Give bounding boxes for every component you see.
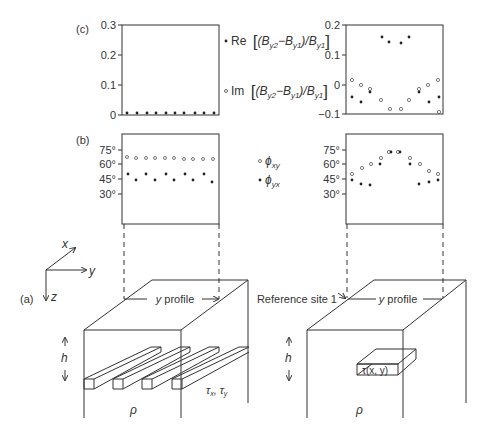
panel-c-label: (c): [76, 23, 89, 35]
re-points: [351, 36, 441, 104]
plot-b-left: 75° 60° 45° 30°: [99, 134, 219, 224]
y-profile-label-right: y profile: [378, 293, 418, 305]
ytick: 45°: [323, 173, 340, 185]
h-label-right: h: [285, 351, 292, 365]
plot-c-left: 0.3 0.2 0.1 0: [101, 19, 219, 121]
ytick: 60°: [323, 158, 340, 170]
ytick: 75°: [323, 144, 340, 156]
svg-text:Im [(By2−By1)/By1]: Im [(By2−By1)/By1]: [231, 82, 328, 101]
figure-canvas: (c) 0.3 0.2 0.1 0 Re [(By2−By1)/By1] Im …: [0, 0, 491, 433]
axis-y-label: y: [88, 264, 96, 278]
phi-xy-points: [126, 156, 215, 161]
filled-dot-icon: [225, 40, 228, 43]
ytick: 75°: [99, 144, 116, 156]
axis-x-label: x: [61, 237, 69, 251]
plot-b-right: 75° 60° 45° 30°: [323, 134, 443, 224]
tau-label: τx, τy: [206, 384, 228, 398]
im-points: [350, 78, 440, 113]
ytick: 0.1: [325, 49, 340, 61]
panel-b-label: (b): [76, 134, 89, 146]
panel-a-label: (a): [20, 293, 33, 305]
filled-dot-icon: [259, 179, 262, 182]
legend-im-prefix: Im: [231, 84, 244, 98]
legend-b: ϕxy ϕyx: [259, 154, 281, 189]
ytick: 30°: [323, 188, 340, 200]
ytick: 0: [110, 109, 116, 121]
ytick: 0.1: [101, 79, 116, 91]
y-profile-label: y profile: [155, 293, 195, 305]
ytick: 0: [334, 79, 340, 91]
open-dot-icon: [225, 90, 228, 93]
ytick: 30°: [99, 188, 116, 200]
ytick: −0.1: [318, 108, 340, 120]
ytick: 0.2: [101, 49, 116, 61]
legend-c: Re [(By2−By1)/By1] Im [(By2−By1)/By1]: [225, 32, 330, 101]
ytick: 45°: [99, 173, 116, 185]
phi-xy-points: [350, 150, 439, 175]
projection-lines: [124, 224, 443, 299]
data-points: [126, 112, 216, 115]
conductive-stripes: [84, 347, 249, 389]
svg-text:ϕxy: ϕxy: [265, 154, 281, 170]
ytick: 0.2: [325, 19, 340, 31]
rho-label: ρ: [129, 403, 137, 417]
rho-label-right: ρ: [355, 403, 363, 417]
ytick: 0.3: [101, 19, 116, 31]
open-dot-icon: [259, 160, 262, 163]
h-label: h: [61, 351, 68, 365]
svg-text:ϕyx: ϕyx: [265, 173, 281, 189]
ytick: 60°: [99, 158, 116, 170]
reference-site-label: Reference site 1: [257, 293, 337, 305]
tau-inclusion-label: τ(x, y): [362, 365, 388, 376]
legend-re-prefix: Re: [231, 34, 247, 48]
plot-c-right: 0.2 0.1 0 −0.1: [318, 19, 443, 120]
svg-text:Re [(By2−By1)/By1]: Re [(By2−By1)/By1]: [231, 32, 330, 51]
phi-yx-points: [127, 173, 214, 184]
axis-z-label: z: [50, 290, 57, 304]
